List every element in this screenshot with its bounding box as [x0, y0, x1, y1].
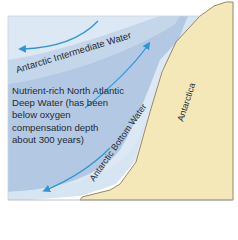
deep-water-line-3: below oxygen [12, 109, 124, 121]
deep-water-description: Nutrient-rich North Atlantic Deep Water … [12, 85, 124, 146]
deep-water-line-2: Deep Water (has been [12, 97, 124, 109]
deep-water-line-5: about 300 years) [12, 134, 124, 146]
deep-water-line-1: Nutrient-rich North Atlantic [12, 85, 124, 97]
deep-water-line-4: compensation depth [12, 122, 124, 134]
